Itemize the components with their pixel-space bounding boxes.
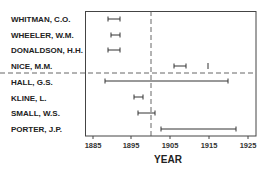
row-label: PORTER, J.P. — [11, 125, 62, 134]
row-label: WHITMAN, C.O. — [11, 15, 71, 24]
x-tick-label: 1915 — [201, 141, 218, 150]
row-label: SMALL, W.S. — [11, 109, 60, 118]
x-axis-title: YEAR — [154, 154, 183, 165]
range-bar-hall — [105, 79, 228, 84]
x-tick-labels: 1885 1895 1905 1915 1925 — [85, 141, 257, 150]
plot-frame — [86, 12, 257, 137]
range-chart: WHITMAN, C.O. WHEELER, W.M. DONALDSON, H… — [0, 0, 267, 172]
row-label: NICE, M.M. — [11, 62, 52, 71]
row-label: DONALDSON, H.H. — [11, 46, 83, 55]
range-bar-small — [138, 111, 155, 116]
row-label: HALL, G.S. — [11, 78, 53, 87]
row-label: KLINE, L. — [11, 94, 47, 103]
x-tick-label: 1885 — [85, 141, 102, 150]
x-tick-label: 1925 — [240, 141, 257, 150]
range-bar-nice — [174, 63, 208, 69]
range-bar-porter — [161, 127, 236, 132]
range-bars — [105, 17, 236, 132]
range-bar-wheeler — [111, 33, 120, 38]
range-bar-kline — [134, 95, 143, 100]
row-labels: WHITMAN, C.O. WHEELER, W.M. DONALDSON, H… — [11, 15, 83, 134]
range-bar-donaldson — [108, 48, 120, 53]
row-label: WHEELER, W.M. — [11, 31, 74, 40]
x-tick-label: 1895 — [123, 141, 140, 150]
range-bar-whitman — [108, 17, 120, 22]
x-tick-label: 1905 — [162, 141, 179, 150]
